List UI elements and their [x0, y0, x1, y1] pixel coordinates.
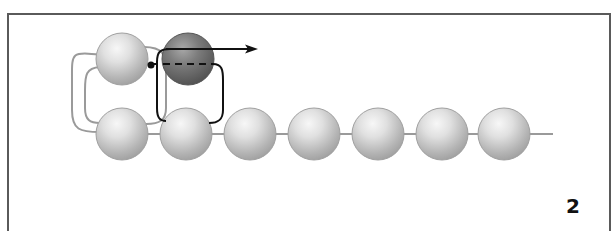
top-bead-light-icon: [96, 33, 148, 85]
needle-entry-dot-icon: [148, 62, 155, 69]
bead-icon: [224, 108, 276, 160]
top-bead-dark-icon: [162, 33, 214, 85]
bead-icon: [96, 108, 148, 160]
bead-icon: [478, 108, 530, 160]
beading-diagram: [0, 0, 612, 231]
step-number: 2: [566, 196, 580, 216]
bottom-bead-row: [96, 108, 530, 160]
bead-icon: [160, 108, 212, 160]
gray-thread-loop-inner: [85, 67, 100, 123]
black-thread-right-loop: [209, 64, 223, 123]
bead-icon: [416, 108, 468, 160]
bead-icon: [288, 108, 340, 160]
bead-icon: [352, 108, 404, 160]
